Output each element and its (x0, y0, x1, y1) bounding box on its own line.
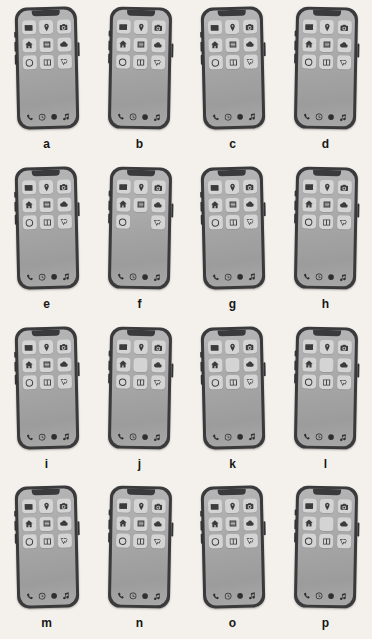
phone-device-a[interactable] (14, 6, 79, 129)
app-icon-camera-icon[interactable] (242, 179, 256, 193)
app-icon-chart-zigzag-icon[interactable] (243, 214, 257, 228)
dock-filled-circle-icon[interactable] (49, 272, 58, 281)
app-icon-list-icon[interactable] (39, 357, 53, 371)
app-icon-location-pin-icon[interactable] (133, 499, 147, 513)
app-icon-list-icon[interactable] (133, 517, 147, 531)
dock-filled-circle-icon[interactable] (326, 113, 335, 122)
app-icon-envelope-icon[interactable] (21, 340, 35, 354)
app-icon-location-pin-icon[interactable] (319, 339, 333, 353)
app-icon-location-pin-icon[interactable] (133, 180, 147, 194)
dock-music-note-icon[interactable] (61, 272, 70, 281)
app-icon-chart-zigzag-icon[interactable] (336, 55, 350, 69)
app-icon-circle-outline-icon[interactable] (301, 374, 315, 388)
dock-clock-icon[interactable] (223, 272, 232, 281)
app-icon-cloud-icon[interactable] (150, 38, 164, 52)
mute-switch[interactable] (108, 30, 110, 36)
app-icon-circle-outline-icon[interactable] (208, 534, 222, 548)
app-icon-list-icon[interactable] (319, 37, 333, 51)
power-button[interactable] (262, 202, 264, 216)
volume-button[interactable] (199, 201, 201, 211)
app-icon-envelope-icon[interactable] (302, 20, 316, 34)
power-button[interactable] (170, 523, 172, 537)
app-icon-chart-zigzag-icon[interactable] (150, 375, 164, 389)
dock-music-note-icon[interactable] (247, 112, 256, 121)
app-icon-home-icon[interactable] (301, 516, 315, 530)
volume-button[interactable] (107, 533, 109, 543)
app-icon-camera-icon[interactable] (337, 340, 351, 354)
phone-device-d[interactable] (293, 6, 357, 129)
app-icon-cloud-icon[interactable] (336, 38, 350, 52)
dock-phone-handset-icon[interactable] (116, 432, 125, 441)
volume-button[interactable] (293, 533, 295, 543)
app-icon-envelope-icon[interactable] (207, 340, 221, 354)
phone-device-g[interactable] (200, 166, 265, 289)
app-icon-location-pin-icon[interactable] (38, 180, 52, 194)
volume-button[interactable] (200, 374, 202, 384)
app-icon-book-icon[interactable] (132, 55, 146, 69)
app-icon-envelope-icon[interactable] (207, 180, 221, 194)
dock-phone-handset-icon[interactable] (25, 113, 34, 122)
volume-button[interactable] (14, 55, 16, 65)
app-icon-location-pin-icon[interactable] (224, 499, 238, 513)
app-icon-blank-tile[interactable] (225, 357, 239, 371)
dock-clock-icon[interactable] (314, 272, 323, 281)
power-button[interactable] (356, 44, 358, 58)
app-icon-envelope-icon[interactable] (207, 500, 221, 514)
volume-button[interactable] (107, 360, 109, 370)
volume-button[interactable] (13, 42, 15, 52)
app-icon-circle-outline-icon[interactable] (22, 55, 36, 69)
dock-filled-circle-icon[interactable] (235, 432, 244, 441)
power-button[interactable] (76, 42, 78, 56)
dock-phone-handset-icon[interactable] (211, 113, 220, 122)
app-icon-camera-icon[interactable] (242, 499, 256, 513)
dock-phone-handset-icon[interactable] (302, 432, 311, 441)
app-icon-camera-icon[interactable] (151, 499, 165, 513)
phone-device-j[interactable] (107, 326, 171, 449)
dock-filled-circle-icon[interactable] (326, 432, 335, 441)
dock-filled-circle-icon[interactable] (326, 592, 335, 601)
app-icon-camera-icon[interactable] (337, 180, 351, 194)
dock-clock-icon[interactable] (128, 112, 137, 121)
dock-filled-circle-icon[interactable] (235, 592, 244, 601)
dock-filled-circle-icon[interactable] (49, 432, 58, 441)
app-icon-book-icon[interactable] (318, 215, 332, 229)
power-button[interactable] (356, 203, 358, 217)
mute-switch[interactable] (13, 351, 15, 357)
app-icon-circle-outline-icon[interactable] (115, 214, 129, 228)
mute-switch[interactable] (13, 511, 15, 517)
dock-clock-icon[interactable] (314, 112, 323, 121)
volume-button[interactable] (199, 361, 201, 371)
dock-music-note-icon[interactable] (338, 432, 347, 441)
app-icon-home-icon[interactable] (21, 357, 35, 371)
volume-button[interactable] (107, 53, 109, 63)
app-icon-circle-outline-icon[interactable] (208, 55, 222, 69)
app-icon-list-icon[interactable] (225, 197, 239, 211)
phone-device-n[interactable] (107, 486, 171, 609)
dock-filled-circle-icon[interactable] (49, 112, 58, 121)
app-icon-book-icon[interactable] (225, 534, 239, 548)
app-icon-home-icon[interactable] (115, 37, 129, 51)
app-icon-location-pin-icon[interactable] (133, 20, 147, 34)
volume-button[interactable] (107, 520, 109, 530)
app-icon-list-icon[interactable] (225, 517, 239, 531)
volume-button[interactable] (14, 214, 16, 224)
dock-clock-icon[interactable] (223, 432, 232, 441)
dock-phone-handset-icon[interactable] (211, 592, 220, 601)
app-icon-chart-zigzag-icon[interactable] (243, 54, 257, 68)
app-icon-book-icon[interactable] (318, 534, 332, 548)
app-icon-envelope-icon[interactable] (21, 20, 35, 34)
app-icon-chart-zigzag-icon[interactable] (243, 534, 257, 548)
app-icon-camera-icon[interactable] (56, 179, 70, 193)
app-icon-book-icon[interactable] (39, 55, 53, 69)
app-icon-chart-zigzag-icon[interactable] (150, 534, 164, 548)
power-button[interactable] (262, 42, 264, 56)
dock-music-note-icon[interactable] (152, 113, 161, 122)
power-button[interactable] (170, 203, 172, 217)
app-icon-chart-zigzag-icon[interactable] (57, 534, 71, 548)
dock-phone-handset-icon[interactable] (302, 272, 311, 281)
app-icon-envelope-icon[interactable] (116, 339, 130, 353)
app-icon-chart-zigzag-icon[interactable] (150, 215, 164, 229)
app-icon-circle-outline-icon[interactable] (301, 55, 315, 69)
volume-button[interactable] (107, 213, 109, 223)
app-icon-cloud-icon[interactable] (336, 357, 350, 371)
